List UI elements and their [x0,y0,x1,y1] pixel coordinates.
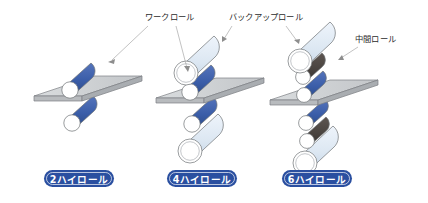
plate-front-edge [156,98,204,103]
roll-end-face [297,88,312,103]
rolling-mill-diagram: 2ハイロール [0,0,428,203]
callout-label: ワークロール [145,12,194,22]
callout-label: バックアップロール [229,12,303,22]
callout-label: 中間ロール [355,34,396,44]
roll-end-face [62,82,78,98]
badge-four-high: 4ハイロール [167,170,237,187]
badge-label: 2ハイロール [50,174,108,185]
roll-end-face [182,84,198,100]
roll-end-face [299,116,314,131]
roll-end-face [288,49,312,73]
roll-end-face [184,116,200,132]
badge-label: 4ハイロール [173,174,231,185]
plate-front-edge [270,100,318,105]
roll-end-face [178,139,202,163]
roll-end-face [64,115,80,131]
badge-label: 6ハイロール [288,174,346,185]
badge-two-high: 2ハイロール [44,170,114,187]
diagram-canvas: 2ハイロール [0,0,428,203]
badge-six-high: 6ハイロール [282,170,352,187]
roll-end-face [300,134,315,149]
